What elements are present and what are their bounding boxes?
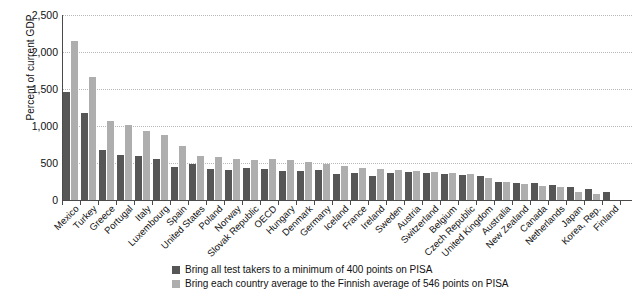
x-axis-tick — [80, 200, 81, 205]
x-axis-tick — [602, 200, 603, 205]
x-axis-tick — [296, 200, 297, 205]
bar-series1 — [81, 113, 88, 200]
x-axis-tick — [476, 200, 477, 205]
bar-group — [351, 15, 367, 200]
x-axis-tick — [548, 200, 549, 205]
legend-item: Bring each country average to the Finnis… — [172, 278, 509, 289]
x-axis-tick — [584, 200, 585, 205]
legend-label: Bring all test takers to a minimum of 40… — [185, 264, 432, 275]
bar-group — [603, 15, 619, 200]
legend-swatch-series2 — [172, 280, 180, 288]
chart-legend: Bring all test takers to a minimum of 40… — [172, 264, 509, 292]
bar-group — [171, 15, 187, 200]
x-axis-tick — [62, 200, 63, 205]
x-axis-tick — [440, 200, 441, 205]
bar-group — [261, 15, 277, 200]
bar-group — [63, 15, 79, 200]
x-axis-tick — [512, 200, 513, 205]
bar-group — [477, 15, 493, 200]
bar-group — [441, 15, 457, 200]
bar-series2 — [71, 41, 78, 200]
bar-series2 — [161, 135, 168, 200]
x-axis-tick — [116, 200, 117, 205]
x-axis-tick — [314, 200, 315, 205]
y-axis-tick-label: 500 — [14, 157, 58, 169]
x-axis-tick — [368, 200, 369, 205]
bar-group — [153, 15, 169, 200]
bar-group — [81, 15, 97, 200]
x-axis-tick — [278, 200, 279, 205]
x-axis-tick — [620, 200, 621, 205]
y-axis-line — [62, 15, 63, 201]
x-axis-tick — [422, 200, 423, 205]
x-axis-tick — [260, 200, 261, 205]
y-axis-tick-labels: 05001,0001,5002,0002,500 — [10, 0, 58, 301]
bar-chart: Percent of current GDP 05001,0001,5002,0… — [0, 0, 640, 301]
x-axis-tick — [566, 200, 567, 205]
bar-group — [369, 15, 385, 200]
legend-item: Bring all test takers to a minimum of 40… — [172, 264, 509, 275]
x-axis-tick — [224, 200, 225, 205]
bar-series1 — [63, 92, 70, 200]
y-axis-tick-label: 1,000 — [14, 120, 58, 132]
bar-group — [243, 15, 259, 200]
plot-area — [62, 15, 632, 200]
bar-group — [99, 15, 115, 200]
bar-group — [405, 15, 421, 200]
x-axis-tick — [458, 200, 459, 205]
bar-group — [423, 15, 439, 200]
x-axis-tick — [134, 200, 135, 205]
x-axis-tick — [188, 200, 189, 205]
y-axis-tick-label: 2,000 — [14, 46, 58, 58]
bar-group — [387, 15, 403, 200]
bar-group — [117, 15, 133, 200]
bar-group — [315, 15, 331, 200]
x-axis-tick — [152, 200, 153, 205]
bar-group — [207, 15, 223, 200]
x-axis-tick — [98, 200, 99, 205]
x-axis-tick — [242, 200, 243, 205]
bar-group — [135, 15, 151, 200]
x-axis-tick — [386, 200, 387, 205]
bar-group — [333, 15, 349, 200]
x-axis-tick — [170, 200, 171, 205]
legend-label: Bring each country average to the Finnis… — [185, 278, 509, 289]
x-axis-tick — [494, 200, 495, 205]
x-axis-tick — [404, 200, 405, 205]
y-axis-tick-label: 2,500 — [14, 9, 58, 21]
x-axis-tick — [206, 200, 207, 205]
legend-swatch-series1 — [172, 266, 180, 274]
x-axis-tick — [350, 200, 351, 205]
bar-group — [297, 15, 313, 200]
bar-group — [531, 15, 547, 200]
y-axis-tick-label: 0 — [14, 194, 58, 206]
y-axis-tick-label: 1,500 — [14, 83, 58, 95]
x-axis-tick — [332, 200, 333, 205]
x-axis-tick — [530, 200, 531, 205]
bar-group — [567, 15, 583, 200]
